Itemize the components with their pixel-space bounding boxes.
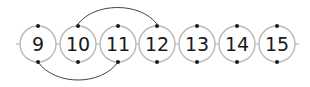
number-label: 11 <box>106 33 130 55</box>
number-label: 13 <box>185 33 209 55</box>
top-dot <box>235 24 239 28</box>
top-dot <box>116 24 120 28</box>
number-node-11: 11 <box>100 24 136 64</box>
number-node-12: 12 <box>139 24 175 64</box>
top-dot <box>275 24 279 28</box>
number-label: 14 <box>225 33 249 55</box>
arc-bottom-9-to-11 <box>38 62 118 80</box>
number-label: 10 <box>66 33 90 55</box>
number-node-9: 9 <box>20 24 56 64</box>
number-line-diagram: 9101112131415 <box>0 0 310 87</box>
number-nodes: 9101112131415 <box>20 24 295 64</box>
bottom-dot <box>36 60 40 64</box>
number-label: 9 <box>32 33 44 55</box>
bottom-dot <box>76 60 80 64</box>
number-node-14: 14 <box>219 24 255 64</box>
top-dot <box>36 24 40 28</box>
number-node-15: 15 <box>259 24 295 64</box>
bottom-dot <box>275 60 279 64</box>
bottom-dot <box>235 60 239 64</box>
bottom-dot <box>116 60 120 64</box>
number-label: 15 <box>265 33 289 55</box>
top-dot <box>76 24 80 28</box>
number-node-13: 13 <box>179 24 215 64</box>
top-dot <box>195 24 199 28</box>
arc-top-10-to-12 <box>78 8 157 25</box>
bottom-dot <box>195 60 199 64</box>
number-label: 12 <box>145 33 169 55</box>
bottom-dot <box>155 60 159 64</box>
top-dot <box>155 24 159 28</box>
number-node-10: 10 <box>60 24 96 64</box>
